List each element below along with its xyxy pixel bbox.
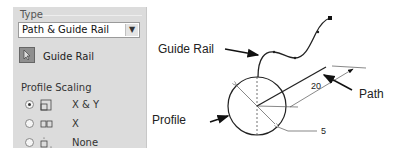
sweep-diagram (140, 0, 401, 160)
scaling-option-label: X & Y (72, 99, 99, 110)
scale-none-icon (40, 137, 58, 149)
guide-rail-callout: Guide Rail (158, 42, 214, 56)
profile-scaling-label: Profile Scaling (21, 82, 92, 93)
group-divider (43, 15, 142, 16)
scaling-option-label: None (72, 137, 98, 148)
chevron-down-icon[interactable]: ▼ (125, 24, 138, 36)
radio-none[interactable] (25, 138, 34, 147)
sweep-type-panel: Type Path & Guide Rail ▼ Guide Rail Prof… (13, 7, 147, 148)
guide-rail-curve (258, 18, 330, 77)
guide-rail-button[interactable] (19, 47, 35, 63)
profile-radius-dimension: 5 (321, 126, 326, 136)
guide-rail-label: Guide Rail (43, 51, 94, 62)
scale-xy-icon (40, 99, 52, 111)
path-callout: Path (359, 87, 384, 101)
type-select-value: Path & Guide Rail (22, 24, 109, 35)
scale-x-icon (40, 118, 54, 130)
radio-x[interactable] (25, 119, 34, 128)
path-length-dimension: 20 (311, 81, 321, 91)
cursor-select-icon (21, 49, 33, 61)
scaling-option-label: X (72, 118, 79, 129)
type-select[interactable]: Path & Guide Rail ▼ (18, 22, 140, 38)
profile-callout: Profile (152, 113, 186, 127)
type-group-label: Type (20, 9, 43, 20)
radio-xy[interactable] (25, 100, 34, 109)
